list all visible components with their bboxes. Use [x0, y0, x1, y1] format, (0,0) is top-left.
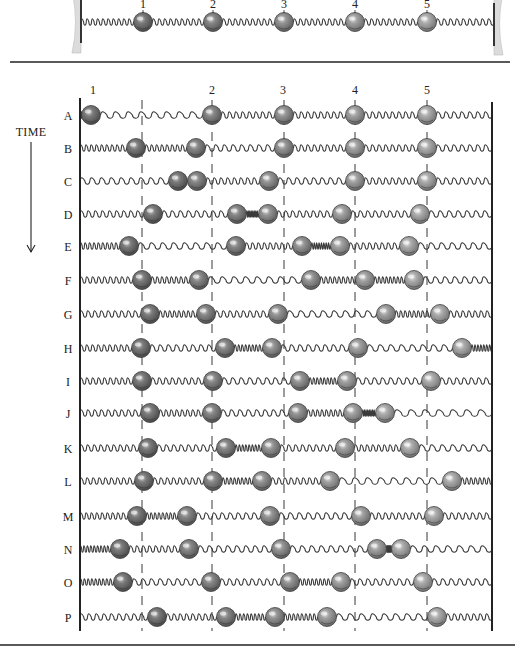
mass-1: [132, 339, 151, 358]
mass-4: [368, 540, 387, 559]
mass-5: [453, 339, 472, 358]
spring: [424, 277, 493, 284]
mass-5: [418, 13, 437, 32]
spring: [147, 513, 178, 520]
mass-4: [338, 372, 357, 391]
spring: [154, 478, 204, 485]
spring: [371, 513, 425, 520]
spring: [236, 445, 262, 452]
spring: [153, 19, 204, 26]
time-axis: TIME: [16, 125, 47, 252]
mass-2: [190, 271, 209, 290]
mass-1: [135, 472, 154, 491]
spring: [163, 211, 228, 218]
spring: [365, 112, 418, 119]
spring: [294, 19, 346, 26]
spring: [375, 277, 405, 284]
spring: [152, 277, 190, 284]
time-row-I: I: [66, 372, 492, 391]
spring: [437, 112, 493, 119]
mass-3: [281, 573, 300, 592]
column-label: 3: [280, 83, 286, 97]
spring: [206, 145, 275, 152]
mass-5: [414, 573, 433, 592]
mass-4: [344, 404, 363, 423]
spring: [351, 579, 414, 586]
spring: [365, 19, 418, 26]
spring: [130, 546, 180, 553]
spring: [236, 614, 266, 621]
row-label: O: [64, 576, 73, 590]
spring: [278, 211, 333, 218]
mass-3: [253, 472, 272, 491]
row-label: E: [64, 240, 71, 254]
spring: [288, 311, 377, 318]
spring: [395, 410, 493, 417]
spring: [80, 478, 135, 485]
mass-2: [178, 507, 197, 526]
time-row-F: F: [65, 271, 492, 290]
spring: [282, 345, 349, 352]
spring: [209, 277, 302, 284]
column-labels: 12345: [90, 83, 430, 97]
mass-3: [260, 172, 279, 191]
spring: [80, 211, 144, 218]
spring: [294, 112, 346, 119]
mass-1: [111, 540, 130, 559]
spring: [472, 345, 493, 352]
spring: [441, 378, 493, 385]
spring: [357, 378, 422, 385]
mass-3: [261, 507, 280, 526]
mass-1: [134, 13, 153, 32]
mass-5: [411, 205, 430, 224]
spring: [281, 445, 336, 452]
spring: [437, 178, 493, 185]
column-label: 4: [352, 83, 358, 97]
reference-chain: 12345: [72, 0, 503, 55]
spring: [158, 445, 217, 452]
mass-3: [272, 540, 291, 559]
spring: [437, 145, 493, 152]
reference-mass-label: 4: [352, 0, 358, 11]
mass-5: [376, 404, 395, 423]
mass-1: [139, 439, 158, 458]
column-label: 5: [424, 83, 430, 97]
mass-1: [141, 305, 160, 324]
mass-4: [333, 205, 352, 224]
spring: [462, 478, 493, 485]
mass-5: [428, 608, 447, 627]
mass-1: [82, 106, 101, 125]
spring: [352, 211, 411, 218]
spring: [152, 378, 204, 385]
row-label: F: [65, 274, 72, 288]
spring: [444, 513, 493, 520]
spring: [80, 178, 169, 185]
time-row-O: O: [64, 573, 492, 592]
spring: [199, 546, 272, 553]
mass-5: [418, 106, 437, 125]
mass-4: [356, 271, 375, 290]
mass-5: [400, 237, 419, 256]
spring: [355, 445, 401, 452]
time-row-B: B: [64, 139, 492, 158]
reference-mass-label: 5: [424, 0, 430, 11]
right-wall-support: [494, 0, 503, 55]
spring: [337, 614, 428, 621]
time-rows: ABCDEFGHIJKLMNOP: [63, 106, 492, 627]
mass-1: [148, 608, 167, 627]
spring: [365, 178, 418, 185]
row-label: J: [66, 407, 71, 421]
spring: [310, 378, 338, 385]
mass-1: [144, 205, 163, 224]
spring: [300, 579, 332, 586]
mass-5: [422, 372, 441, 391]
spring: [396, 311, 431, 318]
mass-2: [204, 13, 223, 32]
mass-5: [401, 439, 420, 458]
figure-canvas: 12345 TIME ABCDEFGHIJKLMNOP 12345: [0, 0, 515, 649]
mass-1: [127, 139, 146, 158]
spring: [321, 277, 356, 284]
spring: [197, 513, 261, 520]
spring: [365, 145, 418, 152]
mass-1: [114, 573, 133, 592]
